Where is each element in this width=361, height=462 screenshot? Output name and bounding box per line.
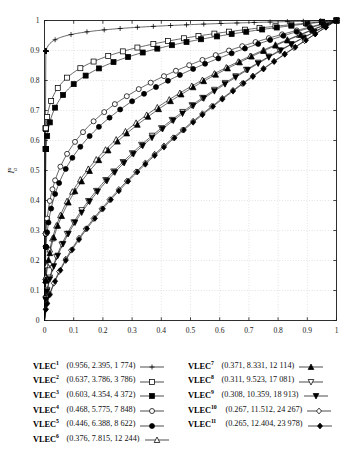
- legend-column-right: VLEC7(0.371, 8.331, 12 114)VLEC8(0.311, …: [188, 358, 333, 431]
- legend-series-index: 2: [56, 374, 59, 380]
- legend-series-name: VLEC6: [33, 433, 64, 444]
- legend-series-values: (0.446, 6.388, 8 622): [67, 419, 136, 428]
- y-tick-label: 0.6: [30, 136, 40, 145]
- legend-item[interactable]: VLEC6(0.376, 7.815, 12 244): [33, 431, 170, 446]
- chart-legend: VLEC1(0.956, 2.395, 1 774)VLEC2(0.637, 3…: [0, 358, 361, 462]
- legend-sample: [298, 359, 324, 371]
- legend-sample: [306, 403, 332, 415]
- legend-marker-filled-diamond: [307, 420, 333, 432]
- y-tick-label: 0.3: [30, 226, 40, 235]
- legend-item[interactable]: VLEC10(0.267, 11.512, 24 267): [188, 402, 333, 417]
- legend-marker-filled-triangle-down: [303, 390, 329, 402]
- legend-series-index: 4: [56, 404, 59, 410]
- legend-item[interactable]: VLEC5(0.446, 6.388, 8 622): [33, 416, 170, 431]
- legend-series-name: VLEC7: [188, 360, 219, 371]
- y-tick-label: 0.1: [30, 286, 40, 295]
- legend-marker-filled-triangle-up: [298, 361, 324, 373]
- legend-item[interactable]: VLEC8(0.311, 9.523, 17 081): [188, 373, 333, 388]
- legend-series-name: VLEC11: [188, 418, 223, 429]
- x-axis-label: Iue: [187, 339, 194, 340]
- legend-marker-open-diamond: [306, 405, 332, 417]
- legend-series-values: (0.603, 4.354, 4 372): [67, 390, 136, 399]
- legend-sample: [139, 388, 165, 400]
- y-tick-label: 0.9: [30, 46, 40, 55]
- legend-series-values: (0.376, 7.815, 12 244): [67, 434, 140, 443]
- legend-series-values: (0.956, 2.395, 1 774): [67, 361, 136, 370]
- legend-item[interactable]: VLEC7(0.371, 8.331, 12 114): [188, 358, 333, 373]
- legend-series-values: (0.267, 11.512, 24 267): [226, 405, 303, 414]
- legend-item[interactable]: VLEC11(0.265, 12.404, 23 978): [188, 416, 333, 431]
- y-tick-label: 1: [36, 16, 40, 25]
- legend-sample: [307, 418, 333, 430]
- x-tick-label: 0.3: [127, 326, 137, 335]
- chart-plot-area: 00.10.20.30.40.50.60.70.80.9100.10.20.30…: [0, 0, 361, 340]
- figure-container: 00.10.20.30.40.50.60.70.80.9100.10.20.30…: [0, 0, 361, 462]
- legend-sample: [139, 418, 165, 430]
- legend-marker-open-triangle-up: [144, 434, 170, 446]
- y-tick-label: 0.2: [30, 256, 40, 265]
- legend-series-name: VLEC10: [188, 404, 223, 415]
- series-vlec6: [43, 18, 339, 321]
- data-curves: [43, 18, 339, 321]
- x-tick-label: 0.4: [157, 326, 167, 335]
- legend-marker-filled-square: [139, 390, 165, 402]
- legend-series-index: 6: [56, 433, 59, 439]
- legend-series-index: 9: [211, 389, 214, 395]
- legend-series-name: VLEC8: [188, 374, 219, 385]
- legend-series-values: (0.308, 10.359, 18 913): [222, 390, 299, 399]
- legend-marker-plus: [139, 361, 165, 373]
- legend-marker-open-triangle-down: [298, 376, 324, 388]
- x-tick-label: 0.1: [69, 326, 79, 335]
- legend-series-name: VLEC5: [33, 418, 64, 429]
- lorenz-curve-chart: 00.10.20.30.40.50.60.70.80.9100.10.20.30…: [0, 0, 361, 340]
- x-tick-label: 0.7: [244, 326, 254, 335]
- x-tick-label: 0.8: [273, 326, 283, 335]
- legend-marker-open-square: [139, 376, 165, 388]
- x-tick-label: 0.5: [186, 326, 196, 335]
- legend-marker-open-circle: [139, 405, 165, 417]
- legend-sample: [144, 432, 170, 444]
- tick-labels: 00.10.20.30.40.50.60.70.80.9100.10.20.30…: [30, 16, 339, 334]
- legend-sample: [303, 388, 329, 400]
- legend-column-left: VLEC1(0.956, 2.395, 1 774)VLEC2(0.637, 3…: [33, 358, 170, 446]
- y-axis-label: Iua: [6, 168, 19, 175]
- y-tick-label: 0.7: [30, 106, 40, 115]
- legend-sample: [139, 359, 165, 371]
- legend-series-index: 3: [56, 389, 59, 395]
- legend-sample: [298, 374, 324, 386]
- legend-sample: [139, 374, 165, 386]
- legend-series-index: 7: [211, 360, 214, 366]
- legend-item[interactable]: VLEC2(0.637, 3.786, 3 786): [33, 373, 170, 388]
- legend-series-name: VLEC3: [33, 389, 64, 400]
- x-tick-label: 0.2: [98, 326, 108, 335]
- legend-series-values: (0.371, 8.331, 12 114): [222, 361, 295, 370]
- legend-item[interactable]: VLEC9(0.308, 10.359, 18 913): [188, 387, 333, 402]
- y-tick-label: 0.4: [30, 196, 40, 205]
- x-tick-label: 0.9: [303, 326, 313, 335]
- legend-series-values: (0.265, 12.404, 23 978): [226, 419, 303, 428]
- y-tick-label: 0: [36, 316, 40, 325]
- legend-series-values: (0.637, 3.786, 3 786): [67, 375, 136, 384]
- legend-series-name: VLEC2: [33, 374, 64, 385]
- legend-item[interactable]: VLEC1(0.956, 2.395, 1 774): [33, 358, 170, 373]
- legend-series-name: VLEC4: [33, 404, 64, 415]
- legend-series-index: 11: [211, 418, 216, 424]
- legend-series-index: 1: [56, 360, 59, 366]
- legend-series-index: 8: [211, 374, 214, 380]
- axis-labels: IueIua: [6, 168, 194, 340]
- legend-item[interactable]: VLEC3(0.603, 4.354, 4 372): [33, 387, 170, 402]
- legend-series-index: 5: [56, 418, 59, 424]
- legend-series-index: 10: [211, 404, 217, 410]
- legend-series-name: VLEC1: [33, 360, 64, 371]
- legend-item[interactable]: VLEC4(0.468, 5.775, 7 848): [33, 402, 170, 417]
- legend-marker-filled-circle: [139, 420, 165, 432]
- y-tick-label: 0.5: [30, 166, 40, 175]
- legend-series-values: (0.311, 9.523, 17 081): [222, 375, 295, 384]
- x-tick-label: 1: [335, 326, 339, 335]
- legend-series-name: VLEC9: [188, 389, 219, 400]
- legend-series-values: (0.468, 5.775, 7 848): [67, 405, 136, 414]
- y-tick-label: 0.8: [30, 76, 40, 85]
- x-tick-label: 0.6: [215, 326, 225, 335]
- legend-sample: [139, 403, 165, 415]
- x-tick-label: 0: [43, 326, 47, 335]
